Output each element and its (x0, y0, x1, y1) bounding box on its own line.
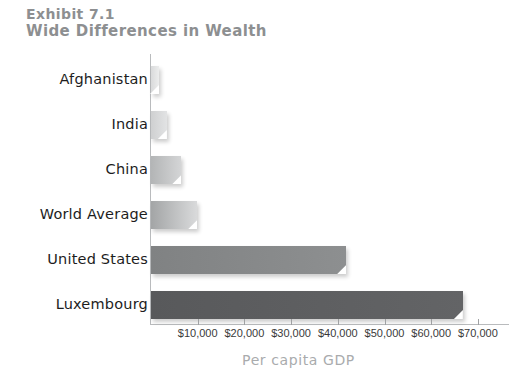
x-axis-line (150, 324, 509, 325)
bar (151, 291, 463, 319)
bar-bevel-corner (454, 310, 463, 319)
chart-screenshot: Exhibit 7.1 Wide Differences in Wealth A… (0, 0, 529, 382)
category-label-luxembourg: Luxembourg (0, 296, 148, 312)
x-axis-title: Per capita GDP (0, 352, 529, 368)
y-axis-line (150, 54, 151, 325)
category-label-world-average: World Average (0, 206, 148, 222)
category-label-china: China (0, 161, 148, 177)
bar-bevel-corner (188, 220, 197, 229)
bar-bevel-corner (158, 130, 167, 139)
bar (151, 111, 167, 139)
x-tick-mark (478, 319, 479, 325)
x-tick-mark (244, 319, 245, 325)
x-tick-mark (198, 319, 199, 325)
bar (151, 246, 346, 274)
category-label-india: India (0, 116, 148, 132)
category-label-afghanistan: Afghanistan (0, 71, 148, 87)
x-tick-mark (431, 319, 432, 325)
x-tick-mark (338, 319, 339, 325)
x-tick-mark (385, 319, 386, 325)
bar-bevel-corner (150, 85, 159, 94)
x-tick-label: $70,000 (443, 327, 513, 339)
category-label-united-states: United States (0, 251, 148, 267)
x-tick-mark (291, 319, 292, 325)
bar-bevel-corner (172, 175, 181, 184)
plot-area: AfghanistanIndiaChinaWorld AverageUnited… (0, 0, 529, 382)
bar (151, 156, 181, 184)
bar-bevel-corner (337, 265, 346, 274)
bar (151, 66, 159, 94)
bar (151, 201, 197, 229)
